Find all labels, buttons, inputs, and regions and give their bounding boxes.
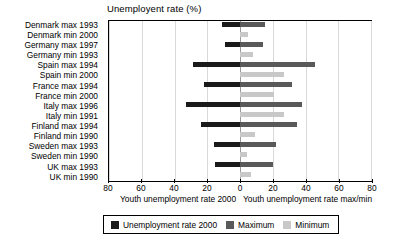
category-label: Germany min 1993 [0,50,102,60]
bar-minimum [240,72,284,77]
bar-row [109,111,371,121]
category-label: Sweden max 1993 [0,142,102,152]
category-label: France max 1994 [0,81,102,91]
category-label: Italy max 1996 [0,101,102,111]
category-label: Germany max 1997 [0,40,102,50]
bar-maximum [240,102,302,107]
bar-unemployment-rate-2000 [222,22,240,27]
legend-label: Maximum [238,220,274,230]
bar-maximum [240,162,273,167]
bar-minimum [240,112,284,117]
bar-unemployment-rate-2000 [214,142,240,147]
bar-unemployment-rate-2000 [186,102,240,107]
x-axis-label-left: Youth unemployment rate 2000 [120,194,236,204]
legend-swatch-icon [226,221,234,229]
bar-minimum [240,152,247,157]
x-tick-label: 60 [136,183,145,193]
bar-maximum [240,42,263,47]
plot-area [108,20,372,182]
bar-maximum [240,22,265,27]
legend-swatch-icon [283,221,291,229]
category-label: Denmark max 1993 [0,20,102,30]
x-tick-label: 20 [268,183,277,193]
category-label: Spain min 2000 [0,71,102,81]
bar-minimum [240,52,253,57]
category-label: Denmark min 2000 [0,30,102,40]
x-tick-label: 80 [103,183,112,193]
x-tick-label: 20 [202,183,211,193]
bar-unemployment-rate-2000 [201,122,240,127]
bar-maximum [240,82,292,87]
category-label: Spain max 1994 [0,61,102,71]
category-label: Finland min 1990 [0,131,102,141]
bar-minimum [240,92,274,97]
bar-row [109,131,371,141]
bar-row [109,151,371,161]
x-tick-label: 60 [334,183,343,193]
bar-row [109,121,371,131]
bar-row [109,101,371,111]
bar-unemployment-rate-2000 [225,42,240,47]
chart-legend: Unemployment rate 2000MaximumMinimum [103,215,339,234]
bar-unemployment-rate-2000 [215,162,240,167]
bar-row [109,91,371,101]
chart-container: Unemployent rate (%) Denmark max 1993Den… [0,0,398,244]
x-tick-label: 0 [238,183,243,193]
bar-row [109,51,371,61]
bar-row [109,71,371,81]
category-label: Finland max 1994 [0,121,102,131]
category-label: UK min 1990 [0,172,102,182]
bar-minimum [240,32,248,37]
bar-row [109,81,371,91]
legend-item[interactable]: Minimum [283,220,329,230]
legend-swatch-icon [111,221,119,229]
bar-rows [109,21,371,181]
bar-unemployment-rate-2000 [204,82,240,87]
category-label: Sweden min 1990 [0,152,102,162]
category-axis: Denmark max 1993Denmark min 2000Germany … [0,20,102,182]
x-axis-label-right: Youth unemployment rate max/min [243,194,372,204]
bar-row [109,161,371,171]
legend-item[interactable]: Maximum [226,220,274,230]
bar-row [109,21,371,31]
bar-row [109,141,371,151]
category-label: Italy min 1991 [0,111,102,121]
bar-row [109,31,371,41]
bar-minimum [240,172,251,177]
bar-maximum [240,142,276,147]
gridline [371,21,372,181]
legend-label: Unemployment rate 2000 [123,220,217,230]
legend-label: Minimum [295,220,329,230]
legend-item[interactable]: Unemployment rate 2000 [111,220,217,230]
category-label: France min 2000 [0,91,102,101]
chart-title: Unemployent rate (%) [107,3,201,14]
x-tick-label: 40 [301,183,310,193]
bar-row [109,41,371,51]
bar-maximum [240,122,297,127]
x-tick-label: 40 [169,183,178,193]
bar-unemployment-rate-2000 [193,62,240,67]
bar-row [109,61,371,71]
category-label: UK max 1993 [0,162,102,172]
bar-minimum [240,132,255,137]
bar-maximum [240,62,315,67]
x-tick-label: 80 [367,183,376,193]
